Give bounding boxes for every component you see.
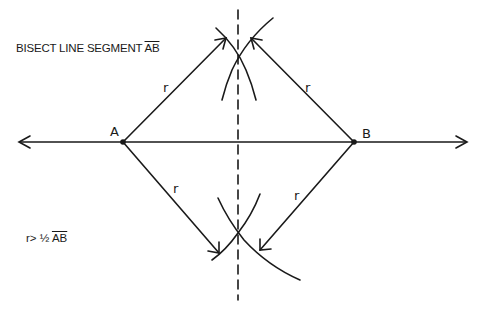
- title-segment: AB: [145, 42, 160, 54]
- title-text: BISECT LINE SEGMENT: [16, 42, 145, 54]
- condition-text: r> ½: [26, 232, 52, 244]
- diagram-title: BISECT LINE SEGMENT AB: [16, 42, 159, 54]
- condition-segment: AB: [52, 232, 67, 244]
- radius-condition: r> ½ AB: [26, 232, 67, 244]
- radius-label-bottom-left: r: [173, 181, 179, 196]
- point-b-label: B: [362, 126, 371, 141]
- radius-label-top-right: r: [305, 80, 311, 95]
- arc-b-bottom: [218, 198, 300, 280]
- point-a: [120, 139, 126, 145]
- radius-b-bottom: [260, 142, 354, 250]
- radius-label-bottom-right: r: [294, 188, 300, 203]
- radius-label-top-left: r: [163, 80, 169, 95]
- radius-b-top: [251, 38, 354, 142]
- radius-a-bottom: [123, 142, 219, 253]
- point-b: [351, 139, 357, 145]
- point-a-label: A: [110, 124, 119, 139]
- arc-b-top: [222, 18, 273, 100]
